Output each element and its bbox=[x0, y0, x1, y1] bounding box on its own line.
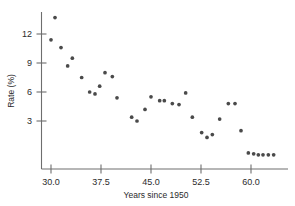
x-axis-title: Years since 1950 bbox=[124, 190, 189, 200]
data-point bbox=[233, 102, 237, 106]
data-point bbox=[88, 90, 92, 94]
data-point bbox=[59, 46, 63, 50]
data-point bbox=[200, 131, 204, 135]
data-point bbox=[246, 151, 250, 155]
data-point bbox=[70, 56, 74, 60]
x-tick-label: 52.5 bbox=[192, 177, 210, 187]
y-ticks-layer: 36912 bbox=[22, 29, 47, 126]
data-point bbox=[184, 91, 188, 95]
data-points-layer bbox=[49, 16, 275, 157]
axes-layer bbox=[42, 12, 289, 169]
x-tick-label: 45.0 bbox=[142, 177, 160, 187]
data-point bbox=[135, 119, 139, 123]
x-ticks-layer: 30.037.545.052.560.0 bbox=[42, 165, 260, 188]
data-point bbox=[53, 16, 57, 20]
data-point bbox=[130, 115, 134, 119]
data-point bbox=[177, 103, 181, 107]
data-point bbox=[256, 153, 260, 157]
data-point bbox=[162, 99, 166, 103]
data-point bbox=[80, 76, 84, 80]
data-point bbox=[170, 102, 174, 106]
y-tick-label: 12 bbox=[22, 29, 32, 39]
data-point bbox=[190, 115, 194, 119]
data-point bbox=[252, 152, 256, 156]
x-tick-label: 60.0 bbox=[242, 177, 260, 187]
data-point bbox=[110, 75, 114, 79]
data-point bbox=[103, 71, 107, 75]
y-tick-label: 9 bbox=[27, 58, 32, 68]
y-tick-label: 6 bbox=[27, 87, 32, 97]
data-point bbox=[49, 38, 53, 42]
scatter-chart: 36912 30.037.545.052.560.0 Rate (%) Year… bbox=[0, 0, 295, 206]
chart-svg: 36912 30.037.545.052.560.0 Rate (%) Year… bbox=[0, 0, 295, 206]
data-point bbox=[261, 153, 265, 157]
data-point bbox=[158, 99, 162, 103]
y-axis-title: Rate (%) bbox=[6, 74, 16, 108]
data-point bbox=[93, 92, 97, 96]
x-tick-label: 30.0 bbox=[42, 177, 60, 187]
x-tick-label: 37.5 bbox=[92, 177, 110, 187]
y-tick-label: 3 bbox=[27, 116, 32, 126]
data-point bbox=[66, 64, 70, 68]
data-point bbox=[210, 133, 214, 137]
data-point bbox=[115, 96, 119, 100]
data-point bbox=[205, 136, 209, 140]
data-point bbox=[149, 95, 153, 99]
data-point bbox=[98, 84, 102, 88]
data-point bbox=[226, 102, 230, 106]
data-point bbox=[266, 153, 270, 157]
data-point bbox=[272, 153, 276, 157]
data-point bbox=[143, 108, 147, 112]
data-point bbox=[218, 117, 222, 121]
data-point bbox=[239, 129, 243, 133]
